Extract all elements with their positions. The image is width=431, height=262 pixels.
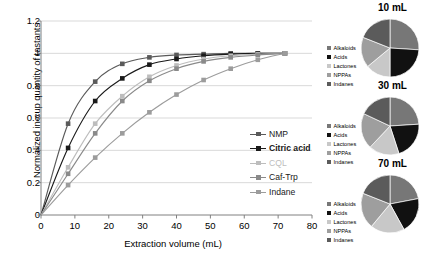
pie-legend-item-indanes[interactable]: Indanes bbox=[327, 80, 356, 89]
pie-legend-label: Lactones bbox=[334, 63, 357, 69]
pie-legend-item-indanes[interactable]: Indanes bbox=[327, 158, 356, 167]
series-line bbox=[41, 53, 285, 215]
pie-slice-nppas bbox=[361, 193, 390, 226]
series-line bbox=[41, 53, 285, 215]
pie-legend-label: Acids bbox=[334, 210, 348, 216]
pie-legend-label: NPPAs bbox=[334, 150, 352, 156]
pie-legend-swatch-icon bbox=[327, 211, 331, 215]
legend-label: CQL bbox=[269, 159, 287, 168]
pie-legend-item-lactones[interactable]: Lactones bbox=[327, 139, 356, 148]
pie-legend: AlkaloidsAcidsLactonesNPPAsIndanes bbox=[327, 43, 356, 89]
x-tick-label: 10 bbox=[63, 220, 87, 231]
pie-legend-swatch-icon bbox=[327, 73, 331, 77]
pie-legend-item-indanes[interactable]: Indanes bbox=[327, 236, 356, 245]
data-point-marker bbox=[283, 51, 288, 56]
x-tick-label: 50 bbox=[198, 220, 222, 231]
pie-legend-swatch-icon bbox=[327, 142, 331, 146]
legend-swatch-icon bbox=[250, 188, 266, 197]
data-point-marker bbox=[93, 121, 98, 126]
pie-slice-lactones bbox=[368, 48, 390, 77]
pie-title: 30 mL bbox=[378, 80, 407, 91]
data-point-marker bbox=[228, 55, 233, 60]
data-point-marker bbox=[66, 121, 71, 126]
legend-item-nmp[interactable]: NMP bbox=[250, 127, 320, 142]
data-point-marker bbox=[147, 62, 152, 67]
data-point-marker bbox=[120, 131, 125, 136]
pie-legend-swatch-icon bbox=[327, 46, 331, 50]
pie-legend-item-nppas[interactable]: NPPAs bbox=[327, 71, 356, 80]
pie-legend-item-acids[interactable]: Acids bbox=[327, 208, 356, 217]
pie-legend-item-lactones[interactable]: Lactones bbox=[327, 217, 356, 226]
pie-slice-alkaloids bbox=[390, 19, 419, 50]
pie-legend-item-alkaloids[interactable]: Alkaloids bbox=[327, 43, 356, 52]
pie-canvas bbox=[359, 173, 421, 235]
data-point-marker bbox=[147, 74, 152, 79]
x-tick-label: 0 bbox=[29, 220, 53, 231]
data-point-marker bbox=[147, 55, 152, 60]
legend-label: Citric acid bbox=[269, 144, 311, 153]
pie-slice-acids bbox=[390, 199, 419, 230]
pie-legend-swatch-icon bbox=[327, 238, 331, 242]
pie-legend-label: Alkaloids bbox=[334, 201, 356, 207]
legend-item-cql[interactable]: CQL bbox=[250, 156, 320, 171]
data-point-marker bbox=[174, 66, 179, 71]
pie-legend-label: Alkaloids bbox=[334, 45, 356, 51]
pie-legend-swatch-icon bbox=[327, 82, 331, 86]
pie-legend-swatch-icon bbox=[327, 133, 331, 137]
data-point-marker bbox=[256, 58, 261, 63]
pie-legend-label: Acids bbox=[334, 132, 348, 138]
pie-legend-swatch-icon bbox=[327, 55, 331, 59]
pie-legend-item-nppas[interactable]: NPPAs bbox=[327, 227, 356, 236]
pie-title: 70 mL bbox=[378, 158, 407, 169]
legend-swatch-icon bbox=[250, 173, 266, 182]
data-point-marker bbox=[174, 53, 179, 58]
pie-slice-alkaloids bbox=[390, 175, 418, 204]
pie-legend-swatch-icon bbox=[327, 229, 331, 233]
legend-item-caf-trp[interactable]: Caf-Trp bbox=[250, 171, 320, 186]
pie-legend-item-alkaloids[interactable]: Alkaloids bbox=[327, 121, 356, 130]
data-point-marker bbox=[256, 53, 261, 58]
legend-label: Caf-Trp bbox=[269, 173, 298, 182]
pie-slice-indanes bbox=[363, 175, 390, 204]
pie-legend-item-lactones[interactable]: Lactones bbox=[327, 61, 356, 70]
pie-legend: AlkaloidsAcidsLactonesNPPAsIndanes bbox=[327, 121, 356, 167]
data-point-marker bbox=[174, 57, 179, 62]
series-line bbox=[41, 53, 285, 215]
data-point-marker bbox=[93, 79, 98, 84]
x-tick-label: 20 bbox=[97, 220, 121, 231]
pie-slice-lactones bbox=[372, 204, 404, 233]
legend-item-citric-acid[interactable]: Citric acid bbox=[250, 142, 320, 157]
pie-canvas bbox=[359, 95, 421, 157]
x-tick-label: 30 bbox=[131, 220, 155, 231]
legend-item-indane[interactable]: Indane bbox=[250, 185, 320, 200]
data-point-marker bbox=[120, 62, 125, 67]
pie-legend-swatch-icon bbox=[327, 220, 331, 224]
pie-slice-acids bbox=[390, 48, 419, 77]
pie-legend-swatch-icon bbox=[327, 151, 331, 155]
pie-legend-label: NPPAs bbox=[334, 72, 352, 78]
line-chart-panel: Normalized in-cup quantity of tastants 1… bbox=[0, 0, 318, 262]
figure-root: Normalized in-cup quantity of tastants 1… bbox=[0, 0, 431, 262]
data-point-marker bbox=[201, 59, 206, 64]
data-point-marker bbox=[93, 99, 98, 104]
legend-label: Indane bbox=[269, 188, 295, 197]
data-point-marker bbox=[120, 94, 125, 99]
pie-legend-item-nppas[interactable]: NPPAs bbox=[327, 149, 356, 158]
pie-legend-item-alkaloids[interactable]: Alkaloids bbox=[327, 199, 356, 208]
data-point-marker bbox=[147, 110, 152, 115]
pie-slice-lactones bbox=[370, 126, 399, 155]
legend-swatch-icon bbox=[250, 130, 266, 139]
x-tick-label: 40 bbox=[165, 220, 189, 231]
pie-legend-label: Lactones bbox=[334, 219, 357, 225]
data-point-marker bbox=[120, 99, 125, 104]
pie-legend-swatch-icon bbox=[327, 124, 331, 128]
pie-legend-item-acids[interactable]: Acids bbox=[327, 130, 356, 139]
pie-slice-nppas bbox=[361, 114, 390, 147]
legend-swatch-icon bbox=[250, 144, 266, 153]
pie-legend-item-acids[interactable]: Acids bbox=[327, 52, 356, 61]
data-point-marker bbox=[93, 155, 98, 160]
pie-legend-label: Indanes bbox=[334, 159, 354, 165]
data-point-marker bbox=[228, 66, 233, 71]
pie-title: 10 mL bbox=[378, 2, 407, 13]
pie-slice-acids bbox=[390, 124, 419, 153]
